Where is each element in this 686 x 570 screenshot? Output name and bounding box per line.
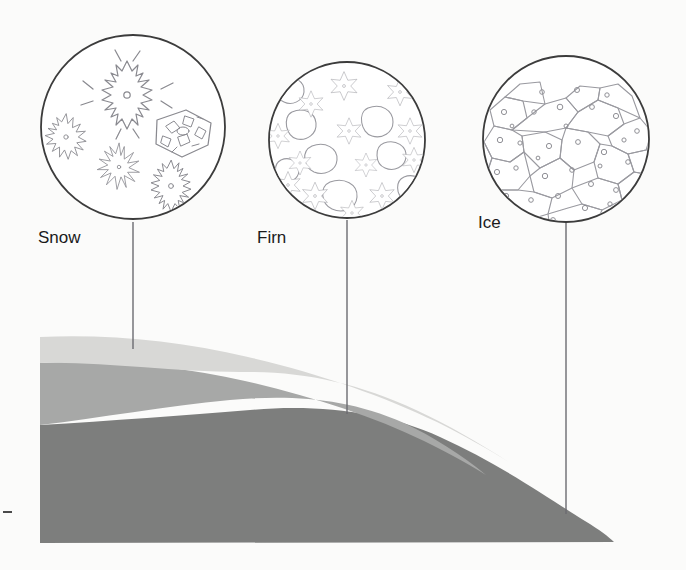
callout-label-firn: Firn	[257, 228, 286, 247]
diagram-canvas: Snow	[0, 0, 686, 570]
snow-firn-ice-diagram: Snow	[0, 0, 686, 570]
callout-label-ice: Ice	[478, 213, 501, 232]
callout-label-snow: Snow	[38, 228, 81, 247]
ice-circle-outline	[483, 56, 649, 222]
